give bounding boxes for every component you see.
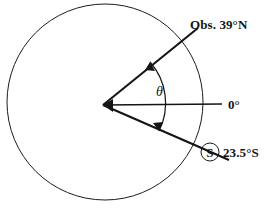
diagram-svg: S Obs. 39°N 0° 23.5°S θ	[0, 0, 267, 208]
subsolar-label: 23.5°S	[223, 145, 259, 160]
observer-label: Obs. 39°N	[190, 17, 248, 32]
earth-circle	[7, 4, 203, 200]
equator-label: 0°	[228, 97, 240, 112]
theta-label: θ	[156, 84, 163, 99]
subsolar-marker-label: S	[206, 145, 213, 160]
equator-ray	[103, 104, 222, 105]
figure-canvas: S Obs. 39°N 0° 23.5°S θ	[0, 0, 267, 208]
